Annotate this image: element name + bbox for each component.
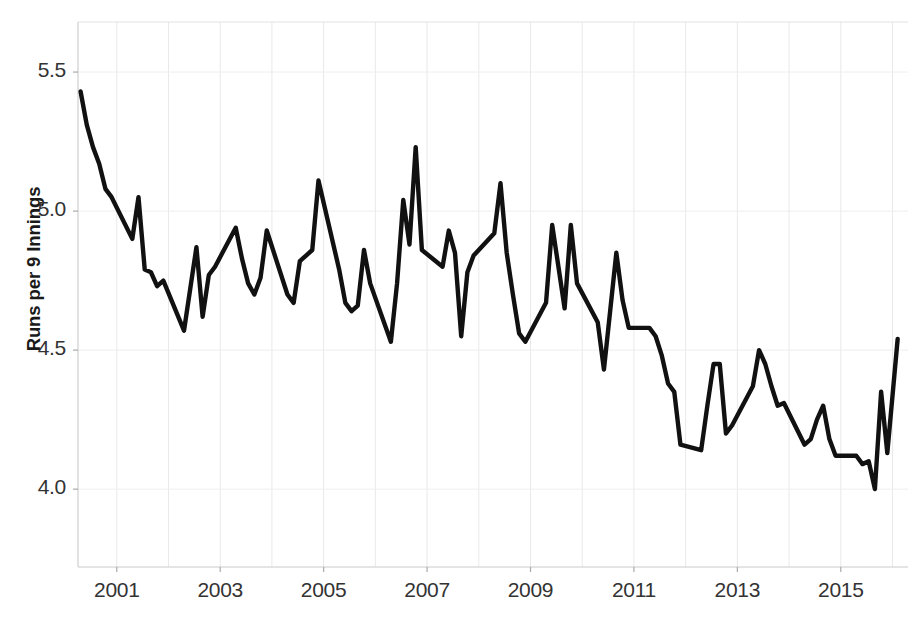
chart-container: Runs per 9 Innings 4.04.55.05.5 20012003… [0,0,915,622]
x-tick-label: 2007 [382,578,472,602]
data-line-runs-per-9-innings [81,92,898,490]
x-tick-label: 2015 [796,578,886,602]
plot-area [0,0,915,622]
y-tick-label: 4.5 [20,336,66,360]
y-tick-label: 5.0 [20,197,66,221]
x-tick-label: 2001 [72,578,162,602]
x-tick-label: 2005 [279,578,369,602]
y-tick-label: 5.5 [20,58,66,82]
axis-ticks [73,72,841,572]
x-tick-label: 2009 [485,578,575,602]
x-tick-label: 2003 [175,578,265,602]
y-tick-label: 4.0 [20,475,66,499]
x-tick-label: 2011 [589,578,679,602]
x-tick-label: 2013 [692,578,782,602]
vertical-gridlines [117,22,893,567]
horizontal-gridlines [78,72,908,489]
